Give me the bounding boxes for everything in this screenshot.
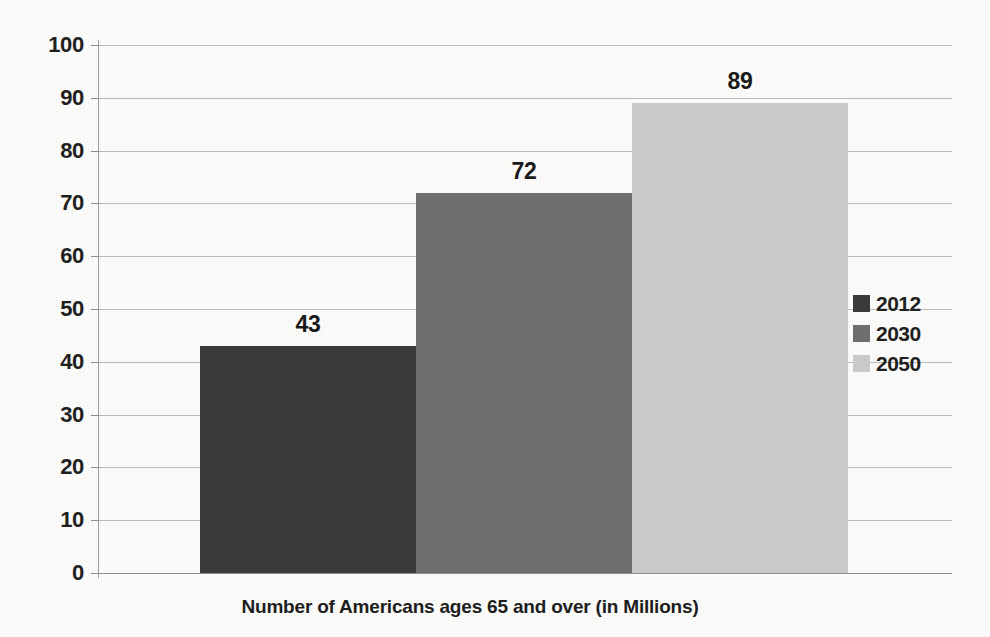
- y-axis-tick: [91, 362, 99, 363]
- y-axis-tick-label: 100: [12, 34, 84, 56]
- bar-value-label-2050: 89: [632, 68, 848, 95]
- y-axis-tick-label: 40: [12, 351, 84, 373]
- y-axis-tick: [91, 203, 99, 204]
- bar-2012[interactable]: [200, 346, 416, 573]
- y-axis-tick-label: 20: [12, 456, 84, 478]
- gridline: [98, 573, 952, 574]
- y-axis-tick-label: 0: [12, 562, 84, 584]
- y-axis-tick: [91, 415, 99, 416]
- y-axis-tick: [91, 98, 99, 99]
- gridline: [98, 98, 952, 99]
- legend-swatch-icon: [853, 325, 870, 342]
- plot-area: [98, 45, 952, 573]
- legend-label: 2050: [876, 353, 921, 374]
- legend-label: 2030: [876, 323, 921, 344]
- legend-item-2030[interactable]: 2030: [853, 318, 963, 348]
- legend-item-2050[interactable]: 2050: [853, 348, 963, 378]
- y-axis-tick-labels: 0102030405060708090100: [0, 0, 84, 637]
- gridline: [98, 45, 952, 46]
- y-axis-tick-label: 70: [12, 192, 84, 214]
- y-axis-tick-label: 80: [12, 140, 84, 162]
- y-axis-tick-label: 90: [12, 87, 84, 109]
- chart-page: 0102030405060708090100 437289 2012203020…: [0, 0, 990, 637]
- y-axis-tick: [91, 151, 99, 152]
- y-axis-tick: [91, 309, 99, 310]
- legend-label: 2012: [876, 293, 921, 314]
- y-axis-tick-label: 50: [12, 298, 84, 320]
- x-axis-title: Number of Americans ages 65 and over (in…: [98, 596, 842, 618]
- y-axis-tick: [91, 256, 99, 257]
- bar-value-label-2030: 72: [416, 158, 632, 185]
- y-axis-tick: [91, 520, 99, 521]
- y-axis-tick-label: 10: [12, 509, 84, 531]
- bar-2050[interactable]: [632, 103, 848, 573]
- legend-swatch-icon: [853, 295, 870, 312]
- y-axis-tick-label: 60: [12, 245, 84, 267]
- y-axis-tick: [91, 45, 99, 46]
- y-axis-tick: [91, 467, 99, 468]
- legend-swatch-icon: [853, 355, 870, 372]
- bar-2030[interactable]: [416, 193, 632, 573]
- bar-value-label-2012: 43: [200, 311, 416, 338]
- chart-legend: 201220302050: [853, 288, 963, 378]
- legend-item-2012[interactable]: 2012: [853, 288, 963, 318]
- y-axis-tick: [91, 573, 99, 574]
- y-axis-tick-label: 30: [12, 404, 84, 426]
